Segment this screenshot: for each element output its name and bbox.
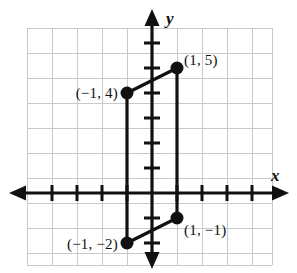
y-axis-label: y <box>164 9 174 28</box>
point-label-d: (−1, −2) <box>67 236 118 253</box>
y-axis-arrow-down <box>145 252 160 269</box>
point-label-c: (1, −1) <box>184 222 226 239</box>
data-point-a <box>121 87 134 100</box>
data-point-b <box>171 62 184 75</box>
point-label-b: (1, 5) <box>184 52 218 69</box>
x-axis-arrow-right <box>272 186 289 201</box>
coordinate-plane-svg: y x (−1, 4) (1, 5) (1, −1) (−1, −2) <box>0 0 297 273</box>
data-point-c <box>171 212 184 225</box>
x-axis-label: x <box>270 166 280 185</box>
y-axis-arrow-up <box>145 9 160 26</box>
x-axis-arrow-left <box>9 186 26 201</box>
point-label-a: (−1, 4) <box>76 85 118 102</box>
coordinate-plane-figure: y x (−1, 4) (1, 5) (1, −1) (−1, −2) <box>0 0 297 273</box>
grid-lines <box>27 28 272 265</box>
data-point-d <box>121 237 134 250</box>
